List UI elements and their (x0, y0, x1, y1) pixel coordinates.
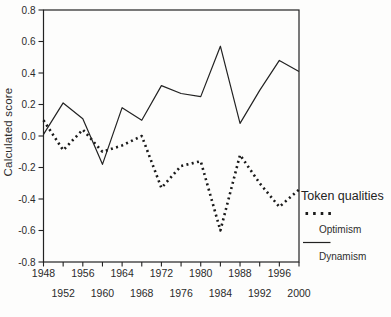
x-year-label: 1976 (169, 287, 193, 299)
x-year-label: 1980 (189, 267, 213, 279)
x-year-label: 1996 (268, 267, 292, 279)
plot-frame (44, 10, 300, 262)
x-year-label: 1952 (51, 287, 75, 299)
x-year-label: 2000 (287, 287, 311, 299)
y-axis-title: Calculated score (1, 52, 15, 212)
legend-title: Token qualities (301, 189, 384, 203)
y-tick-label: -0.4 (18, 194, 36, 205)
y-tick-label: 0.4 (22, 68, 36, 79)
x-year-label: 1992 (248, 287, 272, 299)
y-tick-label: 0.2 (22, 99, 36, 110)
legend-label-optimism: Optimism (319, 224, 361, 235)
x-year-label: 1960 (91, 287, 115, 299)
y-tick-label: 0.0 (22, 131, 36, 142)
x-year-label: 1968 (130, 287, 154, 299)
x-year-label: 1984 (209, 287, 233, 299)
y-tick-label: 0.6 (22, 36, 36, 47)
x-year-label: 1988 (228, 267, 252, 279)
y-tick-label: 0.8 (22, 5, 36, 16)
y-tick-label: -0.8 (18, 257, 36, 268)
y-tick-label: -0.6 (18, 225, 36, 236)
x-year-label: 1948 (32, 267, 56, 279)
x-year-label: 1972 (150, 267, 174, 279)
series-dynamism-line (44, 46, 300, 164)
series-optimism-line (44, 120, 300, 230)
x-year-label: 1964 (110, 267, 134, 279)
legend-label-dynamism: Dynamism (319, 251, 366, 262)
figure: 0.80.60.40.20.0-0.2-0.4-0.6-0.8194819521… (0, 0, 391, 317)
line-chart: 0.80.60.40.20.0-0.2-0.4-0.6-0.8194819521… (0, 0, 391, 317)
y-tick-label: -0.2 (18, 162, 36, 173)
x-year-label: 1956 (71, 267, 95, 279)
